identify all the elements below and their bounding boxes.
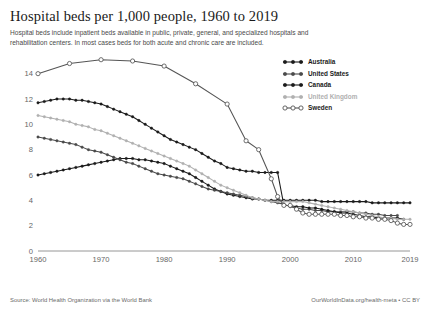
data-point xyxy=(226,167,229,170)
data-point xyxy=(138,120,141,123)
data-point xyxy=(150,170,153,173)
data-point xyxy=(75,124,78,127)
data-point xyxy=(390,215,393,218)
data-point xyxy=(106,106,109,109)
data-point xyxy=(56,170,59,173)
data-point xyxy=(207,156,210,159)
data-point xyxy=(94,129,97,132)
data-point xyxy=(49,139,52,142)
data-point xyxy=(131,143,134,146)
data-point xyxy=(56,118,59,121)
data-point xyxy=(144,124,147,127)
data-point xyxy=(408,223,412,227)
data-point xyxy=(339,201,342,204)
data-point xyxy=(308,207,311,210)
credit-note[interactable]: OurWorldInData.org/health-meta • CC BY xyxy=(311,297,420,303)
data-point xyxy=(81,99,84,102)
data-point xyxy=(251,197,254,200)
data-point xyxy=(376,218,380,222)
data-point xyxy=(182,144,185,147)
data-point xyxy=(56,140,59,143)
data-point xyxy=(275,195,279,199)
data-point xyxy=(370,216,374,220)
data-point xyxy=(169,158,172,161)
data-point xyxy=(37,102,40,105)
data-point xyxy=(87,126,90,128)
legend-item-united-kingdom[interactable]: United Kingdom xyxy=(282,91,357,103)
legend-item-australia[interactable]: Australia xyxy=(282,56,357,68)
data-point xyxy=(395,221,399,225)
legend-marker-icon xyxy=(282,104,304,112)
data-point xyxy=(94,163,97,166)
legend-item-sweden[interactable]: Sweden xyxy=(282,102,357,114)
data-point xyxy=(314,200,317,203)
data-point xyxy=(169,139,172,142)
x-tick-label: 2000 xyxy=(282,255,299,264)
legend-item-canada[interactable]: Canada xyxy=(282,79,357,91)
data-point xyxy=(100,162,103,165)
chart-page: Hospital beds per 1,000 people, 1960 to … xyxy=(0,0,430,312)
data-point xyxy=(333,207,336,210)
data-point xyxy=(307,213,311,217)
data-point xyxy=(257,172,260,175)
y-tick-label: 4 xyxy=(29,196,33,205)
data-point xyxy=(169,165,172,168)
x-tick-label: 1980 xyxy=(156,255,173,264)
data-point xyxy=(270,172,273,175)
data-point xyxy=(68,143,71,146)
data-point xyxy=(112,159,115,162)
data-point xyxy=(239,194,242,197)
data-point xyxy=(327,206,330,209)
data-point xyxy=(409,202,412,205)
data-point xyxy=(163,155,166,158)
data-point xyxy=(175,160,178,163)
data-point xyxy=(270,201,273,204)
data-point xyxy=(339,208,342,211)
data-point xyxy=(365,213,368,216)
data-point xyxy=(119,137,122,140)
data-point xyxy=(43,116,46,119)
data-point xyxy=(396,202,399,205)
y-tick-label: 2 xyxy=(29,222,33,231)
data-point xyxy=(364,216,368,220)
legend-item-label: Australia xyxy=(308,59,335,65)
data-point xyxy=(131,163,134,166)
legend-marker-icon xyxy=(282,93,304,101)
data-point xyxy=(333,201,336,204)
x-tick-label: 2019 xyxy=(402,255,419,264)
data-point xyxy=(320,205,323,208)
data-point xyxy=(383,218,387,222)
data-point xyxy=(163,135,166,138)
data-point xyxy=(302,206,305,209)
data-point xyxy=(201,181,204,184)
data-point xyxy=(43,173,46,176)
x-tick-label: 1960 xyxy=(30,255,47,264)
x-tick-label: 1990 xyxy=(219,255,236,264)
data-point xyxy=(276,201,279,204)
data-point xyxy=(232,168,235,171)
data-point xyxy=(169,175,172,178)
data-point xyxy=(339,214,343,218)
data-point xyxy=(81,146,84,149)
data-point xyxy=(301,211,305,215)
data-point xyxy=(201,173,204,176)
data-point xyxy=(163,163,166,166)
data-point xyxy=(188,165,191,168)
plot-area: 024681012141960197019801990200020102019 … xyxy=(10,53,420,283)
data-point xyxy=(225,102,229,106)
data-point xyxy=(194,183,197,186)
series-canada xyxy=(37,98,405,221)
data-point xyxy=(106,154,109,157)
data-point xyxy=(264,200,267,203)
data-point xyxy=(346,201,349,204)
series-united-states xyxy=(37,136,399,217)
data-point xyxy=(295,201,298,204)
data-point xyxy=(131,158,134,161)
legend-marker-icon xyxy=(282,58,304,66)
data-point xyxy=(62,98,65,101)
legend-item-united-states[interactable]: United States xyxy=(282,68,357,80)
data-point xyxy=(251,170,254,173)
data-point xyxy=(327,201,330,204)
data-point xyxy=(144,159,147,162)
y-tick-label: 10 xyxy=(25,120,33,129)
